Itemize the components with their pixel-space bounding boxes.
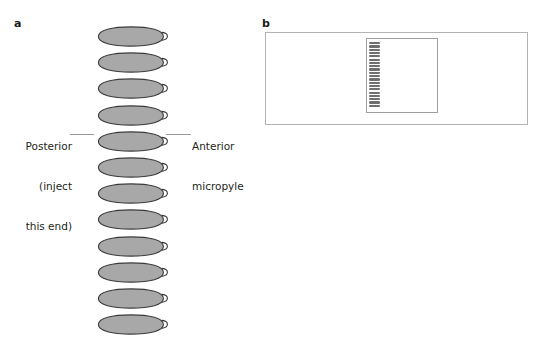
mini-egg [369, 49, 380, 51]
anterior-leader-line [166, 134, 191, 135]
figure-root: a Posterior (inject this end) Anterior m… [0, 0, 547, 352]
egg-column-panel-a [95, 26, 169, 336]
posterior-leader-line [70, 134, 94, 135]
egg [95, 209, 169, 230]
mini-egg [369, 45, 380, 47]
mini-egg [369, 98, 380, 100]
egg [95, 131, 169, 152]
mini-egg [369, 62, 380, 64]
mini-egg [369, 59, 380, 61]
egg [95, 288, 169, 309]
egg [95, 26, 169, 47]
posterior-label-line-3: this end) [10, 220, 72, 233]
egg [95, 314, 169, 335]
egg [95, 78, 169, 99]
egg [95, 52, 169, 73]
mini-egg [369, 52, 380, 54]
anterior-label: Anterior micropyle [192, 114, 272, 220]
posterior-label-line-2: (inject [10, 180, 72, 193]
mini-egg [369, 82, 380, 84]
mini-egg [369, 42, 380, 44]
egg [95, 262, 169, 283]
mini-egg [369, 72, 380, 74]
posterior-label-line-1: Posterior [10, 140, 72, 153]
mini-egg [369, 95, 380, 97]
panel-label-a: a [14, 18, 21, 29]
mini-egg [369, 88, 380, 90]
egg [95, 183, 169, 204]
mini-egg-column-panel-b [369, 42, 380, 109]
mini-egg [369, 92, 380, 94]
mini-egg [369, 68, 380, 70]
anterior-label-line-2: micropyle [192, 180, 272, 193]
mini-egg [369, 101, 380, 103]
egg [95, 236, 169, 257]
egg [95, 157, 169, 178]
mini-egg [369, 55, 380, 57]
anterior-label-line-1: Anterior [192, 140, 272, 153]
mini-egg [369, 85, 380, 87]
panel-label-b: b [262, 18, 270, 29]
mini-egg [369, 65, 380, 67]
mini-egg [369, 105, 380, 107]
posterior-label: Posterior (inject this end) [10, 114, 72, 259]
egg [95, 105, 169, 126]
mini-egg [369, 75, 380, 77]
mini-egg [369, 78, 380, 80]
